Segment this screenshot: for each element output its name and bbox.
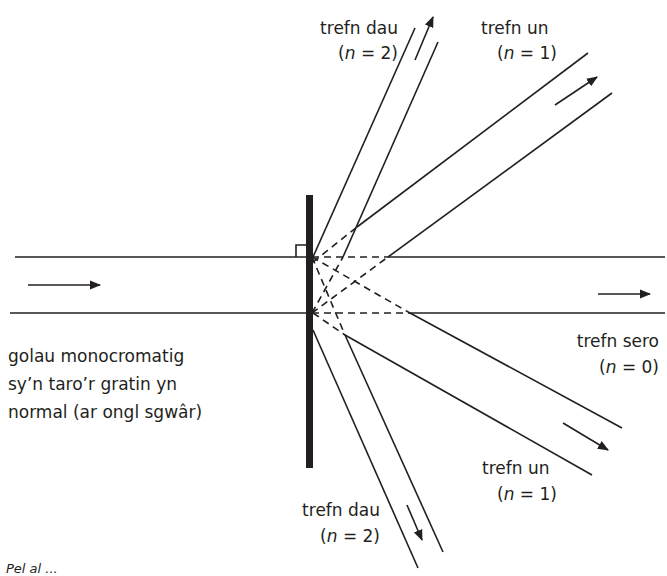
label-second-order-down: trefn dau (n = 2) xyxy=(280,502,380,545)
order-equation: (n = 2) xyxy=(298,45,398,62)
diffraction-grating xyxy=(306,195,313,468)
first-order-down-arrow xyxy=(563,423,608,450)
label-zero-order: trefn sero (n = 0) xyxy=(540,333,659,376)
label-incident-light: golau monocromatig sy’n taro’r gratin yn… xyxy=(8,342,202,426)
order-equation: (n = 1) xyxy=(481,45,557,62)
order-equation: (n = 1) xyxy=(482,486,557,503)
label-first-order-up: trefn un (n = 1) xyxy=(481,20,557,62)
incident-line-2: sy’n taro’r gratin yn xyxy=(8,370,202,398)
first-order-up-beam xyxy=(312,53,612,313)
order-name: trefn dau xyxy=(280,502,380,519)
first-order-up-arrow xyxy=(555,77,597,105)
second-order-up-arrow xyxy=(415,17,433,60)
order-name: trefn un xyxy=(481,20,557,37)
label-second-order-up: trefn dau (n = 2) xyxy=(298,20,398,62)
figure-caption: Pel al ... xyxy=(6,562,58,575)
label-first-order-down: trefn un (n = 1) xyxy=(482,460,557,503)
order-equation: (n = 2) xyxy=(280,528,380,545)
order-name: trefn un xyxy=(482,460,557,477)
zero-order-beam xyxy=(312,257,665,313)
incident-line-3: normal (ar ongl sgwâr) xyxy=(8,398,202,426)
second-order-down-arrow xyxy=(407,505,422,540)
order-name: trefn sero xyxy=(540,333,659,350)
order-equation: (n = 0) xyxy=(540,359,659,376)
incident-beam xyxy=(10,257,310,313)
order-name: trefn dau xyxy=(298,20,398,37)
incident-line-1: golau monocromatig xyxy=(8,342,202,370)
